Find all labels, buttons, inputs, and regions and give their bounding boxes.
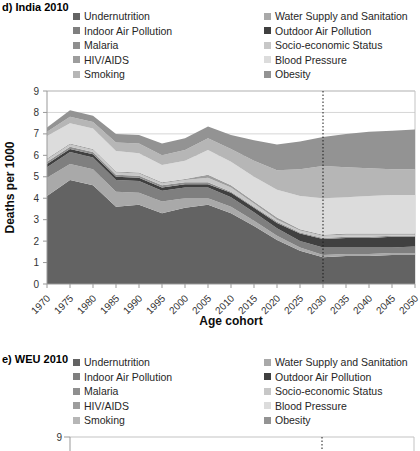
svg-text:8: 8 [33,107,39,118]
stacked-area-chart-india: 0123456789197019751980198519901995200020… [0,86,420,331]
legend-label: Socio-economic Status [275,385,382,397]
svg-text:3: 3 [33,214,39,225]
panel-d-title: d) India 2010 [2,1,69,13]
svg-text:2040: 2040 [351,292,375,316]
legend-item-hiv-aids: HIV/AIDS [73,400,129,412]
svg-text:2005: 2005 [190,292,214,316]
svg-text:1980: 1980 [75,292,99,316]
legend-swatch-undernutrition [73,359,80,366]
legend-label: Blood Pressure [275,54,347,66]
legend-item-smoking: Smoking [73,68,125,80]
legend-item-undernutrition: Undernutrition [73,10,150,22]
legend-swatch-hiv-aids [73,56,80,63]
legend-item-socio-economic: Socio-economic Status [264,39,382,51]
svg-text:1985: 1985 [98,292,122,316]
svg-text:Deaths per 1000: Deaths per 1000 [3,141,17,233]
svg-text:Age cohort: Age cohort [199,314,262,328]
legend-swatch-blood-pressure [264,56,271,63]
svg-text:2035: 2035 [328,292,352,316]
legend-item-outdoor-air-pollution: Outdoor Air Pollution [264,25,371,37]
legend-item-hiv-aids: HIV/AIDS [73,54,129,66]
legend-label: Socio-economic Status [275,39,382,51]
svg-text:1995: 1995 [144,292,168,316]
svg-text:2015: 2015 [236,292,260,316]
legend-label: Malaria [84,39,118,51]
svg-text:2045: 2045 [374,292,398,316]
legend-swatch-malaria [73,388,80,395]
svg-text:1970: 1970 [29,292,53,316]
legend-item-malaria: Malaria [73,385,118,397]
svg-text:1990: 1990 [121,292,145,316]
legend-swatch-malaria [73,42,80,49]
legend-item-socio-economic: Socio-economic Status [264,385,382,397]
legend-label: Obesity [275,68,311,80]
svg-text:7: 7 [33,128,39,139]
legend-swatch-undernutrition [73,13,80,20]
legend-label: Indoor Air Pollution [84,371,172,383]
legend-swatch-smoking [73,417,80,424]
panel-e-title: e) WEU 2010 [2,353,68,365]
svg-text:6: 6 [33,150,39,161]
legend-swatch-obesity [264,417,271,424]
legend-item-blood-pressure: Blood Pressure [264,54,347,66]
legend-swatch-socio-economic [264,388,271,395]
svg-text:2050: 2050 [397,292,420,316]
legend-swatch-water-supply [264,13,271,20]
legend-swatch-smoking [73,71,80,78]
legend-label: Water Supply and Sanitation [275,356,408,368]
svg-text:2: 2 [33,236,39,247]
svg-text:1: 1 [33,257,39,268]
legend-swatch-water-supply [264,359,271,366]
svg-text:0: 0 [33,279,39,290]
legend-swatch-indoor-air-pollution [73,27,80,34]
legend-label: Malaria [84,385,118,397]
svg-text:2030: 2030 [305,292,329,316]
legend-swatch-outdoor-air-pollution [264,373,271,380]
svg-text:2025: 2025 [282,292,306,316]
legend-label: HIV/AIDS [84,400,129,412]
legend-label: Blood Pressure [275,400,347,412]
legend-swatch-hiv-aids [73,402,80,409]
legend-swatch-blood-pressure [264,402,271,409]
legend-swatch-obesity [264,71,271,78]
legend-item-blood-pressure: Blood Pressure [264,400,347,412]
legend-item-undernutrition: Undernutrition [73,356,150,368]
svg-text:1975: 1975 [52,292,76,316]
legend-label: Undernutrition [84,356,150,368]
legend-label: Water Supply and Sanitation [275,10,408,22]
legend-item-water-supply: Water Supply and Sanitation [264,10,408,22]
legend-item-indoor-air-pollution: Indoor Air Pollution [73,25,172,37]
svg-text:2000: 2000 [167,292,191,316]
legend-swatch-indoor-air-pollution [73,373,80,380]
legend-label: Undernutrition [84,10,150,22]
svg-text:5: 5 [33,171,39,182]
legend-item-malaria: Malaria [73,39,118,51]
svg-text:2020: 2020 [259,292,283,316]
legend-item-water-supply: Water Supply and Sanitation [264,356,408,368]
legend-label: Outdoor Air Pollution [275,371,371,383]
svg-text:2010: 2010 [213,292,237,316]
stacked-area-chart-weu-cropped: 9 [0,424,420,451]
svg-text:4: 4 [33,193,39,204]
figure-panels-d-e: d) India 2010 Undernutrition Indoor Air … [0,0,420,451]
legend-swatch-outdoor-air-pollution [264,27,271,34]
legend-item-indoor-air-pollution: Indoor Air Pollution [73,371,172,383]
legend-item-obesity: Obesity [264,68,311,80]
svg-text:9: 9 [33,86,39,97]
legend-label: Outdoor Air Pollution [275,25,371,37]
legend-label: Indoor Air Pollution [84,25,172,37]
legend-swatch-socio-economic [264,42,271,49]
svg-text:9: 9 [56,432,62,443]
legend-label: Smoking [84,68,125,80]
legend-label: HIV/AIDS [84,54,129,66]
legend-item-outdoor-air-pollution: Outdoor Air Pollution [264,371,371,383]
